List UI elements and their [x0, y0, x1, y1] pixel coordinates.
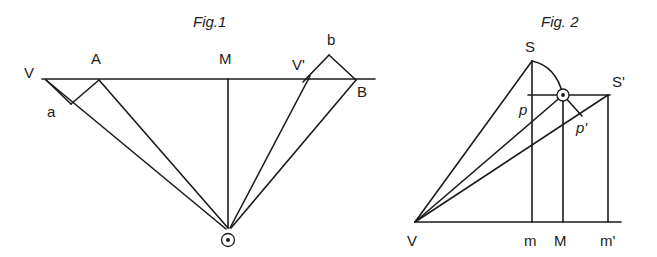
fig2-label-S: S — [525, 38, 535, 55]
fig2-label-S-prime: S' — [612, 73, 625, 90]
figure-2-title: Fig. 2 — [541, 13, 579, 30]
fig2-segment-V-to-S — [415, 61, 532, 222]
figure-2-group: Fig. 2 V m M m' S S' p p' — [407, 13, 625, 249]
fig2-label-V: V — [407, 232, 417, 249]
fig1-label-V-prime: V' — [292, 56, 305, 73]
fig2-label-m-prime: m' — [600, 232, 615, 249]
figure-1-group: Fig.1 V A a M V' b B — [24, 13, 375, 247]
fig2-segment-V-to-S-prime — [415, 95, 608, 222]
fig1-segment-B-ray-to-sun — [231, 80, 356, 228]
fig1-label-b: b — [327, 31, 335, 48]
fig2-arc-S-to-sun — [532, 61, 563, 95]
fig1-segment-vprime-ray-to-sun — [230, 76, 310, 228]
fig1-label-M: M — [219, 50, 232, 67]
diagram-canvas: Fig.1 V A a M V' b B Fig. 2 — [0, 0, 657, 257]
fig1-segment-vprime-to-b — [303, 55, 329, 82]
fig2-label-p: p — [518, 101, 527, 118]
fig1-segment-V-to-sun — [46, 80, 226, 229]
fig1-segment-a-to-A — [71, 80, 99, 104]
fig2-sun-icon — [557, 89, 569, 101]
fig2-label-p-prime: p' — [575, 119, 588, 136]
fig1-segment-A-to-sun — [99, 80, 228, 228]
fig2-label-M: M — [554, 232, 567, 249]
fig2-label-m: m — [524, 232, 537, 249]
geometry-diagram-svg: Fig.1 V A a M V' b B Fig. 2 — [0, 0, 657, 257]
fig1-label-V: V — [24, 64, 34, 81]
fig2-segment-V-to-sun — [415, 95, 563, 222]
fig1-sun-icon — [222, 234, 235, 247]
fig1-label-B: B — [357, 83, 367, 100]
fig1-segment-b-to-B — [329, 55, 356, 80]
fig1-label-A: A — [91, 50, 101, 67]
figure-1-title: Fig.1 — [193, 13, 226, 30]
fig1-label-a: a — [47, 103, 56, 120]
